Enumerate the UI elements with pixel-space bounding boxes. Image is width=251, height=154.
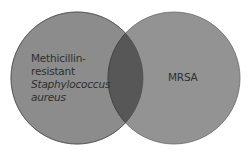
right-label-line-1: MRSA	[168, 71, 198, 84]
left-label-line-4: aureus	[31, 91, 110, 104]
right-set-label: MRSA	[168, 71, 198, 84]
left-set-label: Methicillin- resistant Staphylococcus au…	[31, 52, 110, 104]
left-label-line-3: Staphylococcus	[31, 78, 110, 91]
left-label-line-2: resistant	[31, 65, 110, 78]
left-label-line-1: Methicillin-	[31, 52, 110, 65]
